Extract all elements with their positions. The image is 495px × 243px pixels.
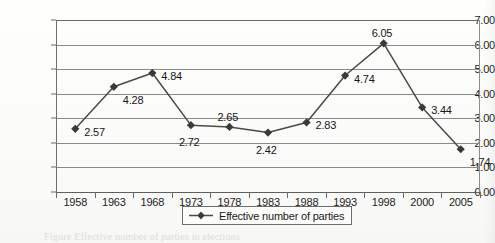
gridline-1.00 (57, 167, 479, 168)
data-label-1998: 6.05 (372, 27, 393, 39)
data-label-2000: 3.44 (431, 104, 452, 116)
data-label-1983: 2.42 (256, 144, 277, 156)
data-label-1973: 2.72 (179, 136, 200, 148)
legend-marker-icon (188, 210, 214, 221)
scan-edge-shading (485, 0, 495, 243)
x-tick-label-2005: 2005 (434, 196, 488, 208)
legend-item-label: Effective number of parties (219, 210, 344, 222)
figure-caption: Figure Effective number of parties in el… (44, 231, 464, 242)
gridline-3.00 (57, 118, 479, 119)
gridline-6.00 (57, 45, 479, 46)
data-label-1988: 2.83 (316, 119, 337, 131)
plot-area (56, 20, 480, 192)
data-label-1993: 4.74 (354, 73, 375, 85)
chart-figure: 0.001.002.003.004.005.006.007.00 1958196… (0, 0, 495, 243)
data-label-1978: 2.65 (217, 111, 238, 123)
data-label-1968: 4.84 (161, 70, 182, 82)
gridline-0.00 (57, 192, 479, 193)
chart-legend[interactable]: Effective number of parties (182, 206, 352, 225)
data-label-1958: 2.57 (84, 126, 105, 138)
gridline-7.00 (57, 20, 479, 21)
gridline-5.00 (57, 69, 479, 70)
gridline-4.00 (57, 94, 479, 95)
data-label-1963: 4.28 (123, 94, 144, 106)
